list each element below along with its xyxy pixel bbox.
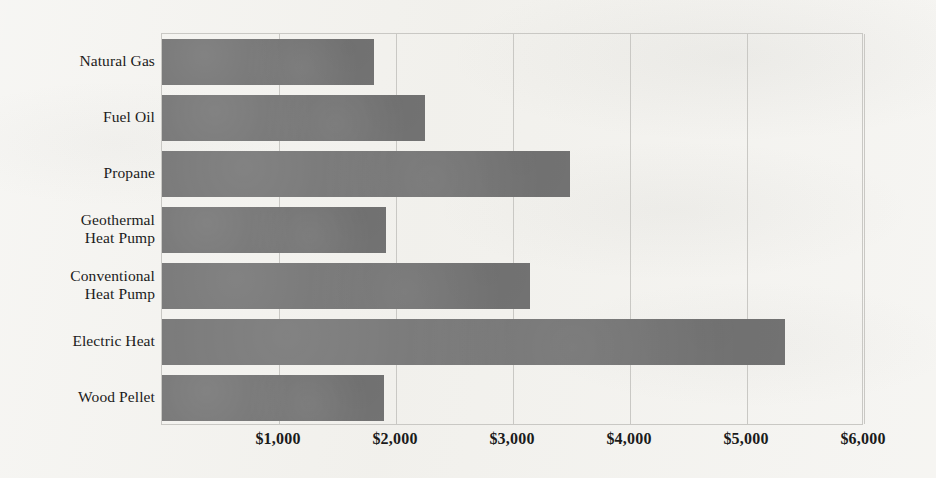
plot-area	[161, 33, 863, 425]
x-tick-label-2000: $2,000	[372, 430, 417, 448]
bar-propane[interactable]	[162, 151, 570, 197]
y-axis-label-propane: Propane	[0, 145, 155, 201]
y-axis-label-wood-pellet: Wood Pellet	[0, 369, 155, 425]
bar-fuel-oil[interactable]	[162, 95, 425, 141]
bar-row	[162, 314, 862, 370]
bar-row	[162, 90, 862, 146]
y-axis-label-text: GeothermalHeat Pump	[5, 211, 155, 247]
bar-electric-heat[interactable]	[162, 319, 785, 365]
y-axis-label-fuel-oil: Fuel Oil	[0, 89, 155, 145]
y-axis-label-text: Electric Heat	[5, 332, 155, 350]
bar-row	[162, 34, 862, 90]
y-axis-label-text: Natural Gas	[5, 52, 155, 70]
y-axis-label-text: Fuel Oil	[5, 108, 155, 126]
bar-row	[162, 202, 862, 258]
x-tick-label-5000: $5,000	[723, 430, 768, 448]
x-tick-label-3000: $3,000	[489, 430, 534, 448]
y-axis-label-electric-heat: Electric Heat	[0, 313, 155, 369]
y-axis-label-geothermal-heat-pump: GeothermalHeat Pump	[0, 201, 155, 257]
bar-wood-pellet[interactable]	[162, 375, 384, 421]
x-tick-label-4000: $4,000	[606, 430, 651, 448]
x-axis-tick-labels: $1,000$2,000$3,000$4,000$5,000$6,000	[0, 430, 936, 460]
y-axis-label-text: Wood Pellet	[5, 388, 155, 406]
bar-geothermal-heat-pump[interactable]	[162, 207, 386, 253]
y-axis-label-text: ConventionalHeat Pump	[5, 267, 155, 303]
y-axis-category-labels: Natural GasFuel OilPropaneGeothermalHeat…	[0, 33, 155, 425]
x-tick-label-6000: $6,000	[840, 430, 885, 448]
x-tick-label-1000: $1,000	[255, 430, 300, 448]
bar-natural-gas[interactable]	[162, 39, 374, 85]
bar-conventional-heat-pump[interactable]	[162, 263, 530, 309]
gridline-6000	[864, 34, 865, 424]
y-axis-label-text: Propane	[5, 164, 155, 182]
bar-row	[162, 146, 862, 202]
bar-row	[162, 370, 862, 426]
y-axis-label-conventional-heat-pump: ConventionalHeat Pump	[0, 257, 155, 313]
bar-row	[162, 258, 862, 314]
horizontal-bar-chart: Natural GasFuel OilPropaneGeothermalHeat…	[0, 0, 936, 478]
y-axis-label-natural-gas: Natural Gas	[0, 33, 155, 89]
